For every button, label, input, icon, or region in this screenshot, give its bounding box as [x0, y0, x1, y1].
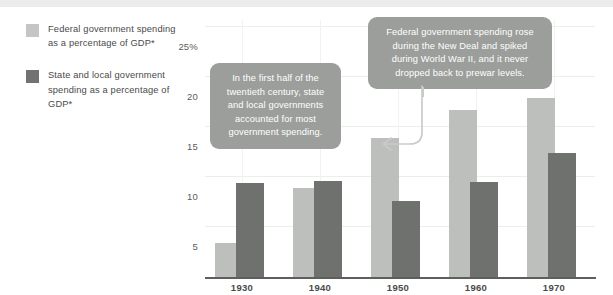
callout-arrow-icon: [370, 86, 450, 161]
y-tick-25: 25%: [165, 41, 198, 52]
bar-state-local-1940: [314, 181, 342, 277]
bar-state-local-1970: [548, 153, 576, 277]
x-axis-line: [205, 277, 596, 279]
legend-label-state-local: State and local government spending as a…: [48, 68, 176, 111]
legend-item-federal: Federal government spending as a percent…: [26, 22, 176, 50]
legend-swatch-state-local-icon: [26, 70, 39, 83]
y-tick-15: 15: [165, 141, 198, 152]
y-tick-20: 20: [165, 91, 198, 102]
callout-federal-note: Federal government spending rose during …: [368, 17, 552, 89]
x-tick-1950: 1950: [387, 282, 409, 293]
legend-item-state-local: State and local government spending as a…: [26, 68, 176, 111]
chart-figure: Federal government spending as a percent…: [0, 0, 613, 295]
x-tick-1960: 1960: [465, 282, 487, 293]
bar-state-local-1960: [470, 182, 498, 277]
x-tick-1940: 1940: [309, 282, 331, 293]
bar-state-local-1950: [392, 201, 420, 277]
x-tick-1970: 1970: [543, 282, 565, 293]
y-tick-5: 5: [165, 241, 198, 252]
legend-label-federal: Federal government spending as a percent…: [48, 22, 176, 50]
legend-swatch-federal-icon: [26, 24, 39, 37]
top-band: [0, 0, 613, 7]
y-axis-labels: 25% 20 15 10 5: [165, 20, 198, 277]
callout-state-local-note: In the first half of the twentieth centu…: [210, 63, 341, 149]
y-tick-10: 10: [165, 191, 198, 202]
chart-legend: Federal government spending as a percent…: [26, 22, 176, 129]
x-tick-1930: 1930: [231, 282, 253, 293]
bar-state-local-1930: [236, 183, 264, 277]
